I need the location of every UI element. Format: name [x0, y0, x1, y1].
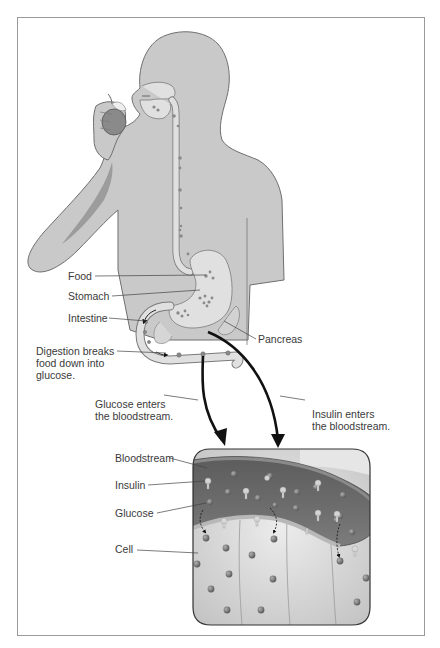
label-cell: Cell	[115, 543, 133, 555]
insulin-arrow	[208, 332, 278, 440]
label-intestine: Intestine	[68, 312, 108, 324]
cell-inset	[193, 449, 381, 625]
digestion-illustration	[0, 0, 440, 648]
human-body	[28, 32, 284, 364]
label-glucose-enters: Glucose enters the bloodstream.	[95, 398, 173, 422]
label-insulin-enters: Insulin enters the bloodstream.	[312, 408, 390, 432]
label-insulin: Insulin	[115, 479, 145, 491]
label-pancreas: Pancreas	[258, 333, 302, 345]
label-food: Food	[68, 270, 92, 282]
label-digestion: Digestion breaks food down into glucose.	[36, 345, 114, 381]
label-bloodstream: Bloodstream	[115, 452, 174, 464]
label-glucose: Glucose	[115, 507, 154, 519]
body-silhouette	[28, 32, 284, 340]
glucose-arrow	[202, 356, 222, 440]
label-stomach: Stomach	[68, 290, 109, 302]
flow-arrows	[202, 332, 285, 448]
